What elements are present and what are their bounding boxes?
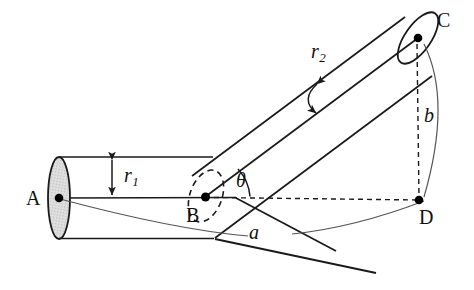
diagram-canvas: A B C D r1 r2 θ a b bbox=[0, 0, 474, 290]
diagram-vector-layer bbox=[0, 0, 474, 290]
label-point-b: B bbox=[186, 205, 199, 225]
point-marker-b bbox=[201, 193, 210, 202]
label-radius-2-symbol: r bbox=[311, 40, 319, 62]
label-arc-b: b bbox=[424, 105, 434, 125]
label-angle-theta: θ bbox=[236, 170, 246, 190]
label-radius-2-subscript: 2 bbox=[319, 50, 326, 65]
label-radius-1: r1 bbox=[124, 165, 139, 188]
label-radius-2: r2 bbox=[311, 41, 326, 64]
label-arc-a: a bbox=[249, 222, 259, 242]
point-marker-c bbox=[414, 34, 423, 43]
label-radius-1-symbol: r bbox=[124, 164, 132, 186]
label-point-d: D bbox=[419, 207, 433, 227]
cylinder-bc-lower-edge bbox=[215, 76, 432, 238]
dashed-line-b-d bbox=[214, 198, 419, 201]
point-marker-d bbox=[415, 196, 424, 205]
silhouette-lower-outer bbox=[215, 239, 376, 273]
arc-a-curve-right bbox=[292, 201, 424, 234]
label-point-c: C bbox=[437, 10, 450, 30]
dashed-line-c-d bbox=[417, 44, 419, 198]
point-marker-a bbox=[55, 194, 64, 203]
label-radius-1-subscript: 1 bbox=[132, 174, 139, 189]
label-point-a: A bbox=[26, 188, 40, 208]
cylinder-bc-upper-edge bbox=[192, 17, 405, 176]
